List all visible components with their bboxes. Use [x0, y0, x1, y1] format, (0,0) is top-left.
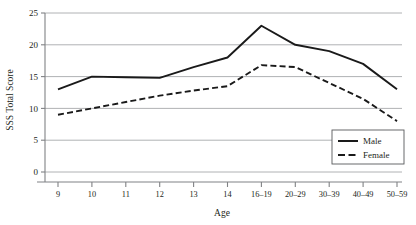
x-tick-label: 16–19 — [251, 190, 272, 199]
chart-legend: MaleFemale — [332, 130, 404, 164]
x-tick-label: 9 — [56, 190, 60, 199]
chart-container: 0510152025 9101112131416–1920–2930–3940–… — [0, 0, 416, 225]
x-tick-label: 10 — [88, 190, 96, 199]
x-tick-label: 13 — [189, 190, 197, 199]
x-tick-label: 50–59 — [387, 190, 408, 199]
y-tick-label: 15 — [29, 72, 39, 82]
y-tick-label: 0 — [34, 167, 39, 177]
y-axis-title: SSS Total Score — [5, 69, 15, 130]
y-tick-label: 20 — [29, 40, 39, 50]
x-axis-title: Age — [214, 208, 230, 218]
x-tick-label: 11 — [122, 190, 130, 199]
y-tick-label: 5 — [34, 135, 39, 145]
legend-label-male: Male — [363, 136, 382, 146]
x-tick-label: 12 — [156, 190, 164, 199]
y-tick-label: 25 — [29, 8, 39, 18]
line-chart: 0510152025 9101112131416–1920–2930–3940–… — [0, 0, 416, 225]
y-tick-label: 10 — [29, 104, 39, 114]
x-tick-label: 14 — [223, 190, 232, 199]
x-tick-label: 30–39 — [319, 190, 340, 199]
x-tick-label: 20–29 — [285, 190, 306, 199]
legend-label-female: Female — [363, 150, 390, 160]
x-tick-label: 40–49 — [353, 190, 374, 199]
